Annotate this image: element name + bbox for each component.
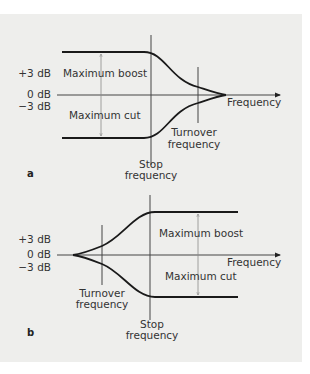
turnover-label-line2: frequency [168,138,221,150]
panel-a: +3 dB 0 dB −3 dB Maximum boost Maximum c… [18,35,281,181]
frequency-label: Frequency [227,96,281,108]
y-label-zero: 0 dB [27,88,51,100]
stop-label-line2: frequency [125,169,178,181]
panel-b-label: b [27,327,34,338]
y-label-zero: 0 dB [27,248,51,260]
turnover-label-line1: Turnover [170,126,217,138]
y-label-minus3: −3 dB [18,100,51,112]
y-label-plus3: +3 dB [18,233,51,245]
panel-b: +3 dB 0 dB −3 dB Maximum boost Maximum c… [18,195,281,341]
shelving-eq-diagram: +3 dB 0 dB −3 dB Maximum boost Maximum c… [0,0,310,374]
y-label-plus3: +3 dB [18,67,51,79]
max-cut-label: Maximum cut [165,270,237,282]
y-label-minus3: −3 dB [18,261,51,273]
max-cut-label: Maximum cut [69,109,141,121]
max-boost-label: Maximum boost [159,227,243,239]
turnover-label-line2: frequency [76,298,129,310]
max-boost-label: Maximum boost [63,67,147,79]
stop-label-line2: frequency [126,329,179,341]
frequency-label: Frequency [227,256,281,268]
panel-a-label: a [27,168,34,179]
